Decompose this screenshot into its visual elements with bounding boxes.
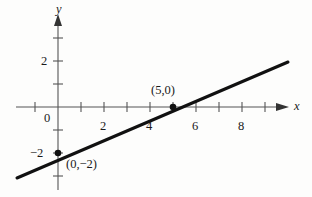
origin-label: 0: [44, 112, 50, 125]
graph-figure: y x 0 2 −2 2 4 6 8 (5,0) (0,−2): [0, 0, 312, 197]
x-tick-label-2: 2: [100, 120, 106, 133]
y-axis-label: y: [56, 3, 62, 16]
point-marker-y-intercept: [55, 150, 62, 157]
x-axis-label: x: [294, 100, 300, 113]
y-tick-label-neg2: −2: [30, 147, 43, 160]
coordinate-plane-svg: [0, 0, 312, 197]
point-marker-x-intercept: [170, 104, 177, 111]
x-axis-arrowhead: [276, 103, 289, 111]
x-tick-label-4: 4: [146, 120, 152, 133]
x-tick-label-8: 8: [238, 120, 244, 133]
x-tick-label-6: 6: [192, 120, 198, 133]
x-intercept-point-label: (5,0): [151, 84, 175, 97]
y-intercept-point-label: (0,−2): [66, 158, 97, 171]
y-tick-label-2: 2: [41, 55, 47, 68]
